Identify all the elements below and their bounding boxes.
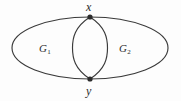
outer-ellipse bbox=[12, 17, 168, 79]
region-label-g1: G1 bbox=[39, 43, 50, 54]
region-label-g2: G2 bbox=[119, 43, 130, 54]
graph-figure: x y G1 G2 bbox=[0, 0, 181, 101]
vertex-x-dot bbox=[87, 14, 92, 19]
vertex-label-x: x bbox=[86, 1, 92, 13]
graph-outline-group bbox=[12, 17, 168, 79]
region-label-g2-subscript: 2 bbox=[127, 48, 131, 56]
region-label-g1-subscript: 1 bbox=[47, 48, 51, 56]
lens-right-arc bbox=[90, 17, 108, 79]
region-label-g2-letter: G bbox=[119, 42, 127, 54]
vertex-group bbox=[87, 14, 92, 81]
region-label-g1-letter: G bbox=[39, 42, 47, 54]
vertex-label-y: y bbox=[86, 85, 92, 97]
lens-left-arc bbox=[73, 17, 91, 79]
vertex-y-dot bbox=[87, 76, 92, 81]
